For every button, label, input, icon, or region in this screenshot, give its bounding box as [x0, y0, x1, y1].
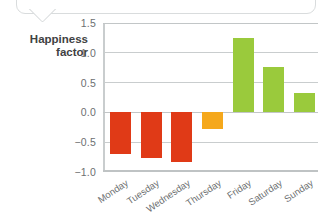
- y-tick-label: 0.0: [62, 106, 96, 118]
- y-tick-label: 1.0: [62, 47, 96, 59]
- gridline: [103, 23, 318, 24]
- x-axis-line: [103, 170, 318, 172]
- bar-saturday: [263, 67, 284, 112]
- y-tick-label: −0.5: [62, 136, 96, 148]
- bar-chart: Happiness factor 1.51.00.50.0−0.5−1.0 Mo…: [0, 0, 329, 224]
- bar-sunday: [294, 93, 315, 112]
- gridline: [103, 82, 318, 83]
- y-axis-title-line1: Happiness: [6, 33, 88, 46]
- gridline: [103, 52, 318, 53]
- bar-friday: [233, 38, 254, 112]
- plot-area: [103, 23, 318, 172]
- bar-wednesday: [171, 112, 192, 162]
- bar-thursday: [202, 112, 223, 129]
- y-tick-label: 0.5: [62, 77, 96, 89]
- bar-monday: [110, 112, 131, 153]
- y-tick-label: 1.5: [62, 17, 96, 29]
- y-axis-line: [103, 23, 105, 172]
- y-tick-label: −1.0: [62, 166, 96, 178]
- gridline: [103, 142, 318, 143]
- bar-tuesday: [141, 112, 162, 157]
